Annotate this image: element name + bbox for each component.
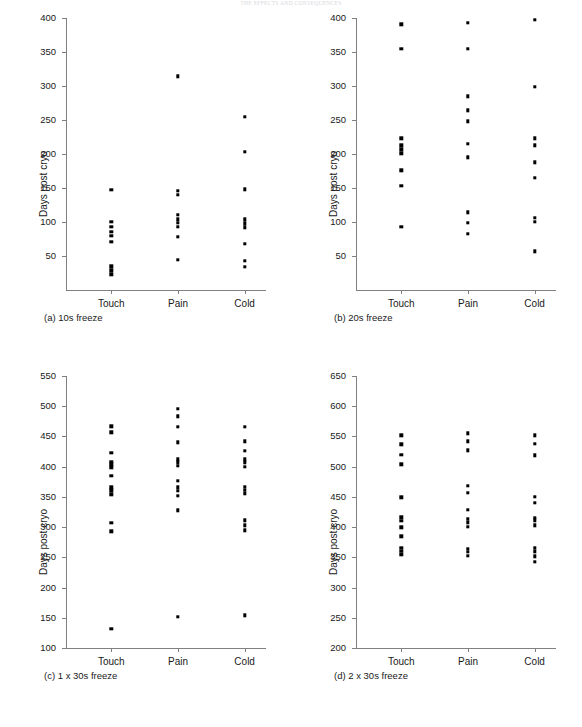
x-tick-c xyxy=(245,648,246,652)
x-axis-line-c xyxy=(66,648,266,649)
data-point xyxy=(400,143,403,146)
data-point xyxy=(400,525,403,528)
data-point xyxy=(466,525,469,528)
x-tick-label-pain: Pain xyxy=(458,298,478,309)
data-point xyxy=(176,235,179,238)
y-tick-a: 300 xyxy=(62,86,66,87)
y-tick-d: 500 xyxy=(352,467,356,468)
y-tick-c: 550 xyxy=(62,376,66,377)
data-point xyxy=(110,474,113,477)
x-tick-c xyxy=(111,648,112,652)
y-tick-c: 250 xyxy=(62,557,66,558)
data-point xyxy=(176,425,179,428)
data-point xyxy=(110,627,113,630)
x-tick-label-pain: Pain xyxy=(168,656,188,667)
data-point xyxy=(533,501,536,504)
data-point xyxy=(243,519,246,522)
data-point xyxy=(533,495,536,498)
data-point xyxy=(400,453,403,456)
data-point xyxy=(400,443,403,446)
data-point xyxy=(533,560,536,563)
y-tick-label-a: 300 xyxy=(40,80,56,91)
x-tick-label-cold: Cold xyxy=(234,656,255,667)
data-point xyxy=(243,115,246,118)
panel-d: 200250300350400450500550600650TouchPainC… xyxy=(294,368,576,716)
data-point xyxy=(400,225,403,228)
panel-caption-a: (a) 10s freeze xyxy=(44,312,103,323)
data-point xyxy=(466,440,469,443)
data-point xyxy=(243,226,246,229)
panel-c: 100150200250300350400450500550TouchPainC… xyxy=(4,368,286,716)
y-tick-a: 50 xyxy=(62,256,66,257)
y-tick-b: 250 xyxy=(352,120,356,121)
data-point xyxy=(533,18,536,21)
data-point xyxy=(466,232,469,235)
y-tick-label-c: 150 xyxy=(40,612,56,623)
data-point xyxy=(110,240,113,243)
data-point xyxy=(466,142,469,145)
y-tick-c: 350 xyxy=(62,497,66,498)
y-tick-label-b: 100 xyxy=(330,216,346,227)
data-point xyxy=(400,184,403,187)
plot-area-c: 100150200250300350400450500550TouchPainC… xyxy=(66,376,266,648)
data-point xyxy=(243,492,246,495)
data-point xyxy=(400,137,403,140)
x-axis-line-d xyxy=(356,648,556,649)
data-point xyxy=(400,47,403,50)
y-tick-label-d: 250 xyxy=(330,612,346,623)
data-point xyxy=(110,234,113,237)
data-point xyxy=(243,259,246,262)
data-point xyxy=(466,211,469,214)
y-axis-line-d xyxy=(356,376,357,648)
data-point xyxy=(243,440,246,443)
y-tick-d: 550 xyxy=(352,436,356,437)
y-tick-d: 200 xyxy=(352,648,356,649)
data-point xyxy=(533,160,536,163)
data-point xyxy=(466,156,469,159)
data-point xyxy=(110,493,113,496)
y-tick-label-d: 550 xyxy=(330,430,346,441)
y-tick-label-b: 300 xyxy=(330,80,346,91)
y-tick-b: 150 xyxy=(352,188,356,189)
data-point xyxy=(533,85,536,88)
data-point xyxy=(176,464,179,467)
data-point xyxy=(176,508,179,511)
data-point xyxy=(176,193,179,196)
data-point xyxy=(466,94,469,97)
data-point xyxy=(400,553,403,556)
data-point xyxy=(466,432,469,435)
data-point xyxy=(243,461,246,464)
data-point xyxy=(110,269,113,272)
y-tick-label-c: 200 xyxy=(40,582,56,593)
data-point xyxy=(533,434,536,437)
panel-caption-b: (b) 20s freeze xyxy=(334,312,393,323)
data-point xyxy=(533,519,536,522)
data-point xyxy=(400,534,403,537)
y-tick-c: 200 xyxy=(62,588,66,589)
x-tick-b xyxy=(401,290,402,294)
x-tick-a xyxy=(111,290,112,294)
plot-area-b: 50100150200250300350400TouchPainCold xyxy=(356,18,556,290)
y-tick-label-c: 450 xyxy=(40,430,56,441)
y-axis-title-d: Days post cryo xyxy=(328,509,339,575)
y-tick-d: 250 xyxy=(352,618,356,619)
data-point xyxy=(176,75,179,78)
data-point xyxy=(533,524,536,527)
y-axis-title-b: Days post cryo xyxy=(328,151,339,217)
y-tick-label-d: 650 xyxy=(330,370,346,381)
y-tick-b: 400 xyxy=(352,18,356,19)
y-tick-b: 200 xyxy=(352,154,356,155)
y-tick-d: 450 xyxy=(352,497,356,498)
data-point xyxy=(110,225,113,228)
data-point xyxy=(533,176,536,179)
data-point xyxy=(400,519,403,522)
data-point xyxy=(466,508,469,511)
x-tick-d xyxy=(468,648,469,652)
x-tick-label-touch: Touch xyxy=(388,298,415,309)
data-point xyxy=(466,21,469,24)
data-point xyxy=(110,273,113,276)
data-point xyxy=(243,150,246,153)
y-tick-a: 400 xyxy=(62,18,66,19)
y-tick-label-a: 50 xyxy=(45,250,56,261)
y-tick-label-c: 400 xyxy=(40,461,56,472)
